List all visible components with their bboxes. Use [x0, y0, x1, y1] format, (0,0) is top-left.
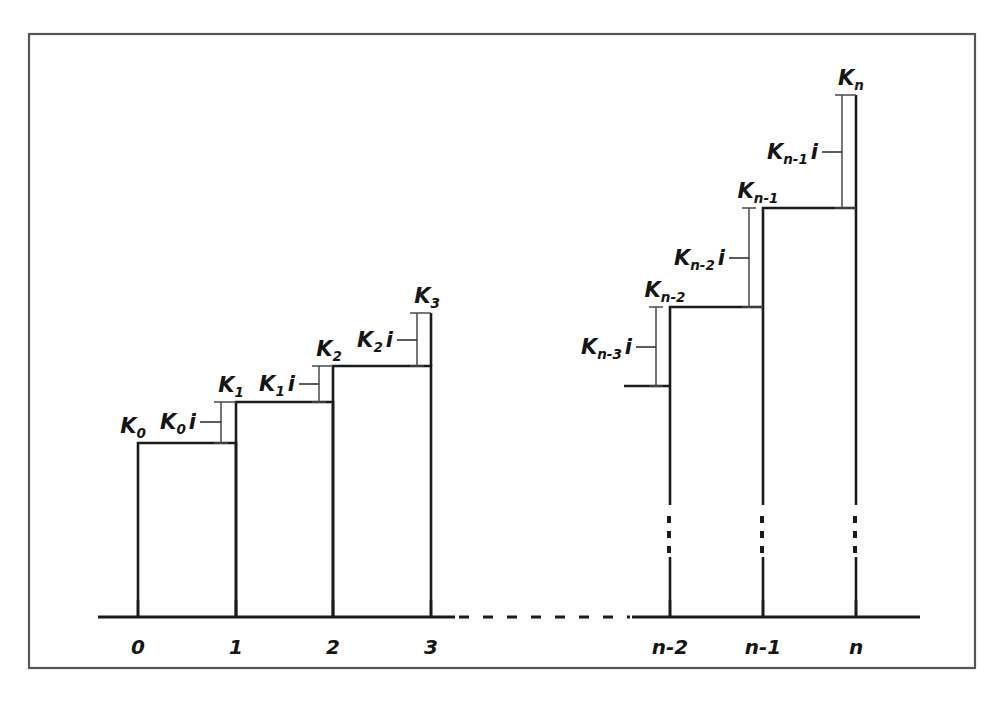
axis-label-0: 0 [131, 635, 145, 659]
increment-label-kn-2i-subscript: n-2 [690, 257, 715, 273]
bar-label-kn-1: Kn-1 [738, 179, 779, 206]
increment-label-kn-2i-factor: i [718, 246, 726, 270]
increment-label-kn-3i-factor: i [625, 335, 633, 359]
increment-label-k1i-factor: i [288, 372, 296, 396]
increment-label-k0i: K0i [160, 410, 197, 437]
bar-1-outline [236, 402, 333, 617]
increment-label-kn-2i: Kn-2i [674, 246, 726, 273]
increment-label-k0i-factor: i [189, 410, 197, 434]
increment-label-k2i-factor: i [386, 328, 394, 352]
increment-label-kn-1i: Kn-1i [767, 140, 819, 167]
increment-label-k1i-subscript: 1 [275, 383, 284, 399]
axis-label-n: n [849, 635, 863, 659]
bar-label-kn-subscript: n [854, 77, 864, 93]
bar-n-1-outline [763, 208, 856, 307]
bar-label-k1-subscript: 1 [234, 384, 243, 400]
bar-label-k0: K0 [120, 414, 146, 441]
axis-label-n-2: n-2 [652, 635, 688, 659]
bar-label-kn-1-subscript: n-1 [754, 190, 779, 206]
increment-label-kn-1i-factor: i [811, 140, 819, 164]
bar-label-k0-subscript: 0 [136, 425, 145, 441]
bar-label-kn-2-subscript: n-2 [661, 289, 686, 305]
bar-label-k2: K2 [316, 337, 342, 364]
axis-label-3: 3 [424, 635, 438, 659]
bar-label-k3-subscript: 3 [430, 295, 439, 311]
vertical-ellipsis-n [853, 516, 857, 553]
increment-label-k1i: K1i [259, 372, 296, 399]
axis-label-n-1: n-1 [745, 635, 781, 659]
increment-label-kn-3i: Kn-3i [581, 335, 633, 362]
bar-label-k2-subscript: 2 [332, 348, 341, 364]
bar-n-2-outline [670, 307, 763, 386]
bar-label-k1: K1 [218, 373, 244, 400]
axis-label-2: 2 [326, 635, 340, 659]
vertical-ellipsis-n-1 [760, 516, 764, 553]
figure-container: 0 1 2 3 n-2 n-1 n K0 K1 K2 K3 Kn-2 Kn-1 … [0, 0, 1001, 702]
bar-2-outline [333, 366, 431, 617]
increment-label-kn-1i-subscript: n-1 [783, 151, 808, 167]
axis-label-1: 1 [229, 635, 243, 659]
increment-label-k0i-subscript: 0 [176, 421, 185, 437]
figure-border [29, 34, 975, 668]
increment-label-kn-3i-subscript: n-3 [597, 346, 622, 362]
vertical-ellipsis-n-2 [667, 516, 671, 553]
bar-label-kn-2: Kn-2 [645, 278, 686, 305]
increment-label-k2i: K2i [357, 328, 394, 355]
bar-label-k3: K3 [414, 284, 440, 311]
increment-label-k2i-subscript: 2 [373, 339, 382, 355]
bar-label-kn: Kn [838, 66, 864, 93]
step-capital-diagram: 0 1 2 3 n-2 n-1 n K0 K1 K2 K3 Kn-2 Kn-1 … [0, 0, 1001, 702]
bar-0-outline [138, 443, 236, 617]
